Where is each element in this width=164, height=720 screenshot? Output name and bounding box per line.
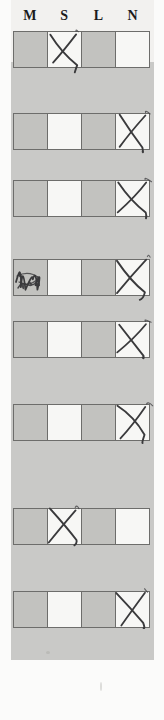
answer-row-5 bbox=[13, 321, 150, 358]
answer-cell-row8-s[interactable] bbox=[48, 592, 82, 627]
answer-cell-row7-l[interactable] bbox=[82, 509, 116, 544]
answer-cell-row3-l[interactable] bbox=[82, 181, 116, 216]
answer-cell-row5-s[interactable] bbox=[48, 322, 82, 357]
answer-cell-row3-m[interactable] bbox=[14, 181, 48, 216]
answer-cell-row2-s[interactable] bbox=[48, 114, 82, 149]
answer-row-2 bbox=[13, 113, 150, 150]
column-header-row: M S L N bbox=[13, 6, 150, 26]
answer-cell-row3-s[interactable] bbox=[48, 181, 82, 216]
answer-cell-row1-n[interactable] bbox=[116, 32, 149, 67]
answer-cell-row1-l[interactable] bbox=[82, 32, 116, 67]
answer-cell-row2-l[interactable] bbox=[82, 114, 116, 149]
answer-cell-row1-s[interactable] bbox=[48, 32, 82, 67]
answer-row-3 bbox=[13, 180, 150, 217]
answer-cell-row7-s[interactable] bbox=[48, 509, 82, 544]
scanned-form-sheet: M S L N bbox=[0, 0, 164, 720]
page-left-gutter bbox=[0, 0, 11, 720]
answer-cell-row8-n[interactable] bbox=[116, 592, 149, 627]
answer-cell-row5-n[interactable] bbox=[116, 322, 149, 357]
answer-cell-row7-m[interactable] bbox=[14, 509, 48, 544]
scan-speck bbox=[46, 651, 50, 654]
answer-row-8 bbox=[13, 591, 150, 628]
answer-row-6 bbox=[13, 404, 150, 441]
answer-cell-row8-m[interactable] bbox=[14, 592, 48, 627]
answer-row-4 bbox=[13, 259, 150, 296]
answer-cell-row7-n[interactable] bbox=[116, 509, 149, 544]
answer-row-1 bbox=[13, 31, 150, 68]
answer-cell-row2-n[interactable] bbox=[116, 114, 149, 149]
column-header-m: M bbox=[13, 6, 47, 26]
answer-row-7 bbox=[13, 508, 150, 545]
column-header-s: S bbox=[47, 6, 81, 26]
answer-cell-row4-l[interactable] bbox=[82, 260, 116, 295]
answer-cell-row5-l[interactable] bbox=[82, 322, 116, 357]
answer-cell-row8-l[interactable] bbox=[82, 592, 116, 627]
answer-cell-row6-l[interactable] bbox=[82, 405, 116, 440]
page-bottom-gutter bbox=[0, 660, 164, 720]
scan-speck bbox=[100, 682, 102, 691]
answer-cell-row6-m[interactable] bbox=[14, 405, 48, 440]
answer-cell-row4-m[interactable] bbox=[14, 260, 48, 295]
answer-cell-row5-m[interactable] bbox=[14, 322, 48, 357]
answer-cell-row1-m[interactable] bbox=[14, 32, 48, 67]
column-header-l: L bbox=[82, 6, 116, 26]
answer-cell-row2-m[interactable] bbox=[14, 114, 48, 149]
answer-cell-row3-n[interactable] bbox=[116, 181, 149, 216]
answer-cell-row4-s[interactable] bbox=[48, 260, 82, 295]
answer-cell-row6-s[interactable] bbox=[48, 405, 82, 440]
answer-cell-row4-n[interactable] bbox=[116, 260, 149, 295]
answer-cell-row6-n[interactable] bbox=[116, 405, 149, 440]
page-right-gutter bbox=[154, 0, 164, 720]
column-header-n: N bbox=[116, 6, 150, 26]
